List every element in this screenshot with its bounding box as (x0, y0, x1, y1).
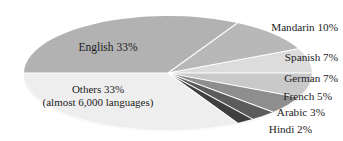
pie-chart-graphic (0, 0, 343, 141)
pie-chart-screenshot: English 33% Others 33% (almost 6,000 lan… (0, 0, 343, 141)
